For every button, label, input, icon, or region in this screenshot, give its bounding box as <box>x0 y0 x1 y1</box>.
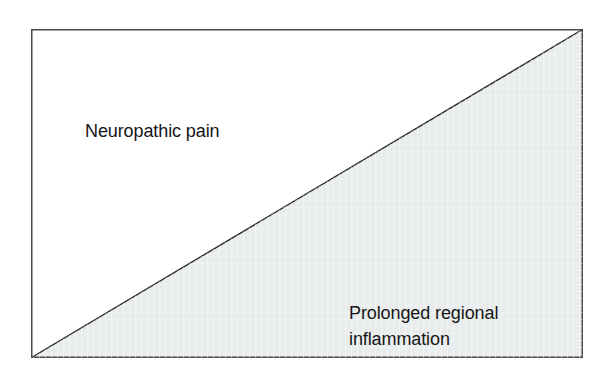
region-label-prolonged-regional-inflammation: Prolonged regional inflammation <box>349 300 498 352</box>
diagram-frame: Neuropathic pain Prolonged regional infl… <box>31 29 583 358</box>
figure-root: Neuropathic pain Prolonged regional infl… <box>0 0 605 383</box>
region-label-neuropathic-pain: Neuropathic pain <box>85 118 220 144</box>
diagram-canvas <box>31 29 583 358</box>
